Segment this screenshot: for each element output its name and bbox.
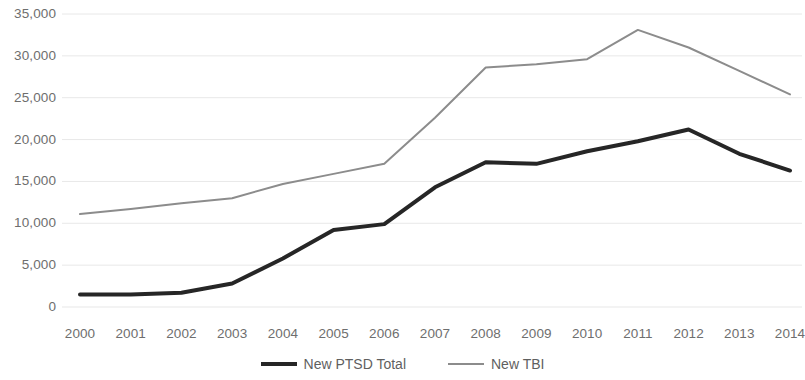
y-axis-tick-label: 15,000 [0,174,56,188]
x-axis-tick-label: 2000 [65,326,95,342]
x-axis-tick-label: 2006 [369,326,399,342]
gridlines [62,14,802,307]
plot-area [62,6,802,318]
series-lines [80,30,790,295]
y-axis-tick-label: 25,000 [0,91,56,105]
legend-item-new-tbi[interactable]: New TBI [448,356,544,372]
x-axis: 2000200120022003200420052006200720082009… [0,326,805,348]
legend-item-label: New PTSD Total [304,356,406,372]
x-axis-tick-label: 2007 [420,326,450,342]
x-axis-tick-label: 2002 [166,326,196,342]
x-axis-tick-label: 2004 [268,326,298,342]
y-axis-tick-label: 30,000 [0,49,56,63]
x-axis-tick-label: 2008 [470,326,500,342]
y-axis: 05,00010,00015,00020,00025,00030,00035,0… [0,0,56,330]
legend-item-new-ptsd-total[interactable]: New PTSD Total [261,356,406,372]
x-axis-tick-label: 2010 [572,326,602,342]
chart-legend: New PTSD Total New TBI [0,352,805,376]
x-axis-tick-label: 2014 [775,326,805,342]
x-axis-tick-label: 2003 [217,326,247,342]
y-axis-tick-label: 0 [0,300,56,314]
x-axis-tick-label: 2013 [724,326,754,342]
legend-line-swatch-icon [261,362,297,366]
line-chart: 05,00010,00015,00020,00025,00030,00035,0… [0,0,805,380]
x-axis-tick-label: 2011 [623,326,652,342]
series-line-new-ptsd-total [80,130,790,295]
y-axis-tick-label: 10,000 [0,216,56,230]
y-axis-tick-label: 5,000 [0,258,56,272]
legend-line-swatch-icon [448,363,484,365]
x-axis-tick-label: 2005 [318,326,348,342]
y-axis-tick-label: 35,000 [0,7,56,21]
x-axis-tick-label: 2012 [673,326,703,342]
plot-svg [62,6,802,318]
x-axis-tick-label: 2009 [521,326,551,342]
x-axis-tick-label: 2001 [115,326,145,342]
legend-item-label: New TBI [491,356,544,372]
y-axis-tick-label: 20,000 [0,133,56,147]
